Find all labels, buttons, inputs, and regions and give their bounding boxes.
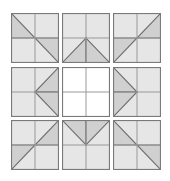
- empty-four-patch-block: [62, 67, 110, 117]
- quilt-sampler-canvas: [0, 0, 170, 181]
- right-pointing-arrow-block: [113, 67, 161, 117]
- diagonal-chevron-block: [11, 13, 59, 63]
- down-arrow-block: [62, 120, 110, 170]
- reverse-diagonal-chevron-block: [11, 120, 59, 170]
- quilt-block-grid: [11, 13, 161, 170]
- diagonal-chevron-block-repeat: [113, 120, 161, 170]
- left-pointing-arrow-block: [11, 67, 59, 117]
- mirrored-diagonal-chevron-block: [113, 13, 161, 63]
- up-arrow-block: [62, 13, 110, 63]
